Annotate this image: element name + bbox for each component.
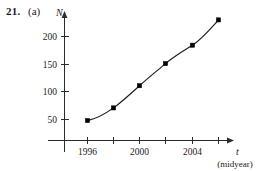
plot-area: 200 150 100 50 1996 2000 2004 N t (midye… <box>0 0 263 171</box>
x-tick-label-2000: 2000 <box>130 147 149 157</box>
data-point-1998 <box>111 106 115 110</box>
y-tick-label-100: 100 <box>43 87 58 97</box>
x-tick-label-2004: 2004 <box>183 147 202 157</box>
data-point-2000 <box>137 84 141 88</box>
x-axis-arrow-icon <box>227 138 234 144</box>
x-tick-label-1996: 1996 <box>78 147 97 157</box>
x-axis-label: t <box>236 146 239 157</box>
data-curve <box>88 20 219 121</box>
y-tick-label-150: 150 <box>43 60 58 70</box>
x-axis-note: (midyear) <box>217 159 252 169</box>
data-point-2006 <box>216 18 220 22</box>
y-tick-label-200: 200 <box>43 32 58 42</box>
data-point-2004 <box>190 43 194 47</box>
data-point-1996 <box>85 119 89 123</box>
chart-svg: 200 150 100 50 1996 2000 2004 N t (midye… <box>0 0 263 171</box>
data-point-2002 <box>163 62 167 66</box>
y-tick-label-50: 50 <box>48 115 58 125</box>
y-axis-label: N <box>55 7 64 18</box>
figure-container: 21. (a) 200 150 100 50 <box>0 0 263 171</box>
